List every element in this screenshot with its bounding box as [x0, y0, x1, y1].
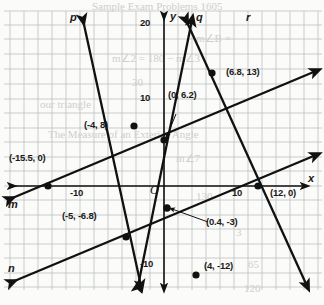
point-dot-0.4-neg3: [163, 204, 171, 212]
svg-text:120: 120: [244, 282, 261, 294]
point-dot-6.8-13: [208, 69, 215, 76]
y-tick-neg10: -10: [140, 258, 153, 269]
svg-text:30: 30: [132, 76, 144, 88]
line-label-p: p: [70, 11, 77, 23]
point-label-12-0: (12, 0): [270, 187, 296, 198]
svg-text:m∠7: m∠7: [176, 152, 201, 164]
line-label-n: n: [8, 262, 15, 274]
origin-label: O: [150, 183, 159, 197]
svg-text:our triangle: our triangle: [40, 98, 91, 110]
point-label-0-6.2: (0, 6.2): [168, 89, 197, 100]
point-label-0.4-neg3: (0.4, -3): [206, 216, 237, 227]
svg-text:Sample Exam Problems 1605: Sample Exam Problems 1605: [92, 0, 223, 12]
line-label-r: r: [246, 11, 250, 23]
point-label-4-neg12: (4, -12): [204, 260, 233, 271]
coordinate-plane: Sample Exam Problems 1605 m∠B = m∠2 = 18…: [0, 0, 324, 305]
svg-text:m∠2 = 180 − m∠3: m∠2 = 180 − m∠3: [112, 52, 201, 64]
x-axis-label: x: [308, 172, 314, 184]
svg-text:m∠B =: m∠B =: [196, 32, 231, 44]
x-tick-neg10: -10: [70, 187, 83, 198]
graph-figure: Sample Exam Problems 1605 m∠B = m∠2 = 18…: [0, 0, 324, 305]
point-label-6.8-13: (6.8, 13): [226, 66, 260, 77]
paper-background: [0, 0, 324, 305]
line-label-q: q: [196, 11, 203, 23]
point-dot-12-0: [254, 182, 261, 189]
point-dot-4-neg12: [192, 271, 199, 278]
y-axis-label: y: [170, 10, 176, 22]
y-tick-10: 10: [140, 92, 150, 103]
y-tick-20: 20: [140, 17, 150, 28]
x-tick-10: 10: [232, 187, 242, 198]
point-label-neg5-neg6.8: (-5, -6.8): [62, 210, 96, 221]
svg-text:65: 65: [248, 258, 260, 270]
svg-text:3: 3: [236, 226, 242, 238]
point-dot-0-6.2: [160, 136, 167, 143]
point-label-neg15.5-0: (-15.5, 0): [9, 152, 46, 163]
point-dot-neg4-8: [130, 122, 137, 129]
point-dot-neg5-neg6.8: [122, 233, 129, 240]
line-label-m: m: [8, 198, 18, 210]
point-dot-neg15.5-0: [44, 182, 51, 189]
point-label-neg4-8: (-4, 8): [84, 119, 108, 130]
